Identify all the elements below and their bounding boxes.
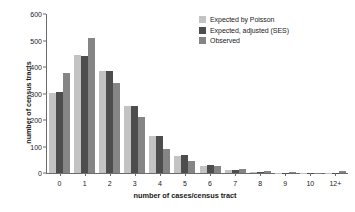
y-axis-tick-mark [43, 40, 46, 41]
bar [264, 171, 271, 173]
bar [156, 136, 163, 173]
x-axis-tick-label: 4 [158, 180, 162, 187]
x-axis-tick-mark [60, 173, 61, 176]
x-axis-tick-label: 2 [108, 180, 112, 187]
legend-item: Expected, adjusted (SES) [199, 27, 289, 34]
x-axis-tick-mark [335, 173, 336, 176]
x-axis-tick-label: 7 [233, 180, 237, 187]
bar [149, 136, 156, 173]
x-axis-tick-label: 10 [306, 180, 314, 187]
y-axis-tick-mark [43, 93, 46, 94]
x-axis-line [46, 173, 348, 174]
y-axis-tick-label: 400 [2, 64, 46, 71]
x-axis-tick-mark [210, 173, 211, 176]
x-axis-tick-mark [285, 173, 286, 176]
y-axis-title: number of census tracts [24, 23, 33, 183]
legend-item-label: Expected by Poisson [210, 16, 274, 23]
y-axis-tick-label: 600 [2, 11, 46, 18]
x-axis-tick-label: 0 [58, 180, 62, 187]
bar [207, 165, 214, 173]
bar-group: 5 [172, 14, 197, 173]
bar [74, 55, 81, 173]
bar-group: 10 [298, 14, 323, 173]
bar [138, 117, 145, 173]
x-axis-tick-mark [235, 173, 236, 176]
y-axis-tick-label: 300 [2, 90, 46, 97]
bar-groups: 01234567891012+ [47, 14, 348, 173]
bar [289, 172, 296, 173]
bar [63, 73, 70, 173]
bar [239, 169, 246, 174]
y-axis-tick-mark [43, 146, 46, 147]
y-axis-tick-mark [43, 14, 46, 15]
x-axis-tick-label: 3 [133, 180, 137, 187]
legend-swatch-icon [199, 37, 206, 44]
chart-legend: Expected by PoissonExpected, adjusted (S… [199, 16, 289, 44]
bar [81, 56, 88, 173]
bar [174, 156, 181, 173]
bar [124, 106, 131, 173]
bar-group: 0 [47, 14, 72, 173]
x-axis-tick-mark [135, 173, 136, 176]
legend-swatch-icon [199, 16, 206, 23]
bar-group: 4 [147, 14, 172, 173]
y-axis-tick-label: 500 [2, 37, 46, 44]
bar [200, 166, 207, 173]
bar [250, 172, 257, 173]
bar-group: 1 [72, 14, 97, 173]
x-axis-tick-label: 12+ [329, 180, 341, 187]
bar [99, 71, 106, 173]
y-axis-tick-label: 0 [2, 170, 46, 177]
x-axis-tick-mark [160, 173, 161, 176]
bar [49, 93, 56, 173]
y-axis-tick-mark [43, 120, 46, 121]
bar-group: 12+ [323, 14, 348, 173]
x-axis-tick-label: 1 [83, 180, 87, 187]
x-axis-tick-mark [110, 173, 111, 176]
bar-group: 3 [122, 14, 147, 173]
y-axis-tick-label: 100 [2, 143, 46, 150]
legend-item-label: Expected, adjusted (SES) [210, 27, 289, 34]
bar [188, 161, 195, 173]
x-axis-tick-label: 9 [283, 180, 287, 187]
bar [113, 83, 120, 173]
legend-item-label: Observed [210, 37, 240, 44]
bar [131, 106, 138, 173]
bar-chart-figure: number of census tracts 0100200300400500… [0, 0, 355, 212]
x-axis-title: number of cases/census tract [40, 191, 330, 200]
x-axis-tick-label: 6 [208, 180, 212, 187]
x-axis-tick-mark [85, 173, 86, 176]
bar [163, 149, 170, 173]
plot-area: 0100200300400500600 01234567891012+ [46, 14, 348, 174]
x-axis-tick-mark [185, 173, 186, 176]
legend-swatch-icon [199, 27, 206, 34]
legend-item: Observed [199, 37, 289, 44]
legend-item: Expected by Poisson [199, 16, 289, 23]
bar-group: 2 [97, 14, 122, 173]
x-axis-tick-mark [260, 173, 261, 176]
bar [214, 166, 221, 173]
bar [106, 71, 113, 173]
bar [88, 38, 95, 173]
bar [181, 155, 188, 173]
x-axis-tick-label: 5 [183, 180, 187, 187]
bar [56, 92, 63, 173]
x-axis-tick-label: 8 [258, 180, 262, 187]
y-axis-tick-mark [43, 173, 46, 174]
x-axis-tick-mark [310, 173, 311, 176]
y-axis-tick-mark [43, 67, 46, 68]
bar [339, 171, 346, 173]
bar [225, 170, 232, 173]
y-axis-tick-label: 200 [2, 117, 46, 124]
